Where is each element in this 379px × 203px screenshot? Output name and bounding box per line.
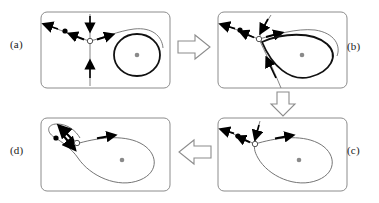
panel-d-saddle-point <box>74 140 79 145</box>
panel-label-c: (c) <box>347 144 360 156</box>
panel-a-frame <box>41 12 170 88</box>
panel-d-frame <box>41 118 170 191</box>
arrow-b-to-c <box>271 92 295 116</box>
panel-d-unstable-focus <box>120 158 125 163</box>
panel-d-stable-node <box>53 135 58 140</box>
panel-c-saddle-point <box>252 141 257 146</box>
panel-a-saddle-point <box>87 38 92 43</box>
panel-c-frame <box>218 118 347 191</box>
panel-b-saddle-point <box>256 36 261 41</box>
panel-b-frame <box>218 12 347 88</box>
panel-b <box>218 12 347 88</box>
panel-c-unstable-focus <box>297 158 302 163</box>
panel-a-stable-node <box>62 28 67 33</box>
bifurcation-figure <box>0 0 379 203</box>
block-arrow-right <box>178 35 210 59</box>
panel-b-stable-node <box>237 27 242 32</box>
arrow-c-to-d <box>179 140 211 164</box>
panel-a-unstable-focus <box>135 53 140 58</box>
panel-d <box>41 118 170 191</box>
panel-b-unstable-focus <box>300 53 305 58</box>
panel-label-d: (d) <box>10 144 23 156</box>
arrow-a-to-b <box>178 35 210 59</box>
panel-c-stable-node <box>235 133 240 138</box>
block-arrow-left <box>179 140 211 164</box>
block-arrow-down <box>271 92 295 116</box>
panel-a <box>41 12 170 88</box>
panel-c <box>218 118 347 191</box>
panel-label-a: (a) <box>10 38 23 50</box>
panel-label-b: (b) <box>347 40 360 52</box>
